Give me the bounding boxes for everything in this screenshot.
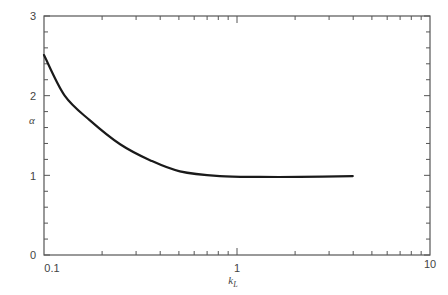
x-tick-label-0.1: 0.1: [44, 262, 59, 274]
x-axis-label-subscript: L: [232, 280, 238, 289]
x-tick-label-10: 10: [424, 258, 436, 270]
x-axis-label: kL: [228, 274, 238, 289]
y-tick-label-3: 3: [30, 10, 36, 22]
plot-frame: [44, 16, 430, 255]
y-tick-label-1: 1: [30, 170, 36, 182]
y-tick-label-2: 2: [30, 90, 36, 102]
data-line: [44, 55, 353, 177]
chart: 3 2 1 0 0.1 1 10 α kL: [0, 0, 448, 295]
ticks: [44, 16, 430, 255]
y-axis-label: α: [29, 114, 35, 126]
y-tick-label-0: 0: [30, 249, 36, 261]
x-tick-label-1: 1: [234, 262, 240, 274]
